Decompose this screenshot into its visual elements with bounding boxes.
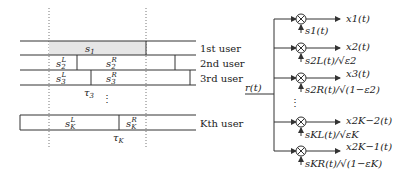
branch-2: x2(t) s2L(t)/√ε2	[274, 41, 370, 66]
output-x2K-2: x2K−2(t)	[346, 115, 392, 126]
symbol-sKR: sKR	[126, 116, 137, 131]
rows-ellipsis: ⋮	[102, 93, 112, 104]
user-row-2: s2L s2R 2nd user	[20, 55, 245, 71]
reference-s2R: s2R(t)/√(1−ε2)	[305, 84, 380, 95]
output-x2: x2(t)	[346, 41, 370, 52]
diagram-canvas: s1 1st user s2L s2R 2nd user s3L s3R 3rd…	[0, 0, 407, 184]
output-x1: x1(t)	[346, 13, 370, 24]
user-row-K: sKL sKR Kth user τK	[20, 115, 244, 145]
symbol-s1-shade	[49, 41, 146, 55]
reference-s2L: s2L(t)/√ε2	[305, 55, 356, 66]
user-row-1: s1 1st user	[20, 41, 241, 56]
symbol-s3L: s3L	[56, 71, 67, 86]
reference-sKL: sKL(t)/√εK	[305, 129, 359, 140]
delay-tau3: τ3	[84, 87, 95, 100]
reference-s1: s1(t)	[305, 25, 328, 36]
branch-3: x3(t) s2R(t)/√(1−ε2)	[274, 68, 380, 95]
user-label-K: Kth user	[200, 118, 244, 129]
delay-tauK: τK	[113, 132, 125, 145]
output-x2K-1: x2K−1(t)	[346, 141, 392, 152]
output-x3: x3(t)	[346, 68, 370, 79]
branch-1: x1(t) s1(t)	[274, 13, 370, 36]
symbol-s2R: s2R	[106, 56, 118, 71]
symbol-sKL: sKL	[65, 116, 76, 131]
reference-sKR: sKR(t)/√(1−εK)	[305, 158, 382, 169]
user-row-3: s3L s3R 3rd user τ3	[20, 70, 243, 100]
user-label-2: 2nd user	[200, 58, 245, 69]
branch-2K-1: x2K−1(t) sKR(t)/√(1−εK)	[274, 141, 392, 169]
user-label-1: 1st user	[200, 43, 241, 54]
branches-ellipsis: ⋮	[290, 97, 300, 108]
symbol-s2L: s2L	[56, 56, 67, 71]
user-label-3: 3rd user	[200, 73, 243, 84]
input-signal-label: r(t)	[245, 82, 262, 93]
timing-diagram: s1 1st user s2L s2R 2nd user s3L s3R 3rd…	[20, 8, 245, 148]
receiver-bank: r(t) x1(t) s1(t) x2(t) s2L(t)/√ε2	[245, 13, 392, 169]
branch-2K-2: x2K−2(t) sKL(t)/√εK	[274, 115, 392, 140]
symbol-s3R: s3R	[106, 71, 118, 86]
